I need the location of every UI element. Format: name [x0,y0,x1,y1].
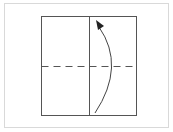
origami-diagram [0,0,173,132]
arrowhead-icon [96,20,104,30]
fold-arrow-curve [95,27,112,113]
